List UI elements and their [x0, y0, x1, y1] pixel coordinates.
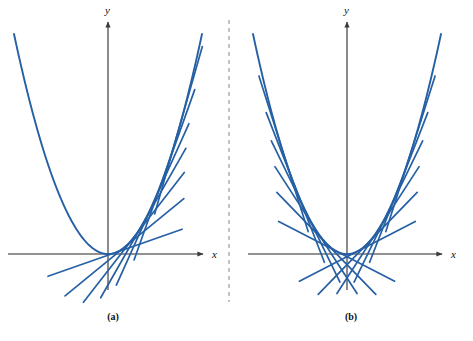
panel-a-y-axis-label: y: [104, 4, 110, 16]
panel-a: x y (a): [8, 4, 217, 323]
panel-b: x y (b): [248, 4, 456, 323]
panel-b-caption: (b): [345, 311, 357, 323]
figure-container: x y (a) x y (b): [0, 0, 473, 341]
panel-b-y-axis-label: y: [343, 4, 349, 16]
panel-b-axes: [248, 22, 442, 290]
panel-b-x-axis-label: x: [450, 248, 456, 260]
panel-a-tangent-lines: [48, 47, 202, 303]
panel-a-caption: (a): [107, 311, 119, 323]
tangent-lines-figure: x y (a) x y (b): [0, 0, 473, 341]
panel-a-x-axis-label: x: [211, 248, 217, 260]
